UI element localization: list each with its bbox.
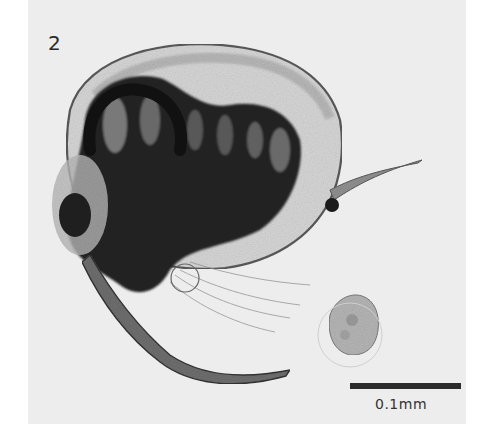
specimen-illustration [0,0,496,443]
setae [170,262,310,332]
scale-bar [350,383,461,389]
panel-label: 2 [48,33,61,53]
scale-bar-label: 0.1mm [375,397,427,411]
detached-clump [329,295,378,355]
spine-base-dot [325,198,339,212]
tail-spine [330,160,422,200]
